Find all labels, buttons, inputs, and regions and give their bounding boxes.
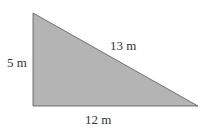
triangle-diagram: 5 m 13 m 12 m — [0, 0, 205, 136]
vertical-side-label: 5 m — [7, 55, 27, 70]
hypotenuse-label: 13 m — [110, 38, 136, 53]
right-triangle — [33, 13, 198, 106]
base-label: 12 m — [85, 112, 111, 127]
